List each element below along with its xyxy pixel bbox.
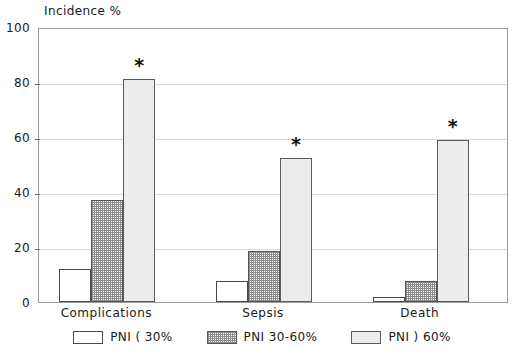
legend-label: PNI 30-60% xyxy=(244,330,318,344)
category-label: Death xyxy=(400,306,439,320)
y-axis-tick-mark xyxy=(35,194,40,195)
y-axis-tick-label: 60 xyxy=(0,131,30,145)
legend-label: PNI ) 60% xyxy=(388,330,450,344)
bar xyxy=(280,158,312,302)
bar xyxy=(123,79,155,302)
legend-swatch-icon xyxy=(207,331,237,344)
bar xyxy=(59,269,91,302)
y-axis-tick-label: 80 xyxy=(0,76,30,90)
legend-item[interactable]: PNI ) 60% xyxy=(351,330,450,344)
legend-swatch-icon xyxy=(351,331,381,344)
bar xyxy=(405,281,437,302)
y-axis-tick-mark xyxy=(35,84,40,85)
y-axis-tick-label: 20 xyxy=(0,241,30,255)
y-axis-tick-label: 0 xyxy=(0,296,30,310)
y-axis-tick-label: 100 xyxy=(0,21,30,35)
bar xyxy=(91,200,123,302)
legend-item[interactable]: PNI ( 30% xyxy=(73,330,172,344)
y-axis-title: Incidence % xyxy=(44,4,121,18)
gridline xyxy=(39,84,507,85)
bar xyxy=(216,281,248,302)
significance-star: * xyxy=(134,56,144,75)
bar xyxy=(437,140,469,302)
legend-swatch-icon xyxy=(73,331,103,344)
bar-chart: Incidence % *** 020406080100 Complicatio… xyxy=(0,0,524,361)
category-label: Sepsis xyxy=(242,306,283,320)
plot-area: *** xyxy=(38,28,508,303)
significance-star: * xyxy=(448,117,458,136)
y-axis-tick-label: 40 xyxy=(0,186,30,200)
legend-label: PNI ( 30% xyxy=(110,330,172,344)
significance-star: * xyxy=(291,135,301,154)
bar xyxy=(373,297,405,303)
y-axis-tick-mark xyxy=(35,139,40,140)
legend-item[interactable]: PNI 30-60% xyxy=(207,330,318,344)
category-label: Complications xyxy=(61,306,152,320)
y-axis-tick-mark xyxy=(35,249,40,250)
chart-legend: PNI ( 30%PNI 30-60%PNI ) 60% xyxy=(0,330,524,344)
bar xyxy=(248,251,280,302)
